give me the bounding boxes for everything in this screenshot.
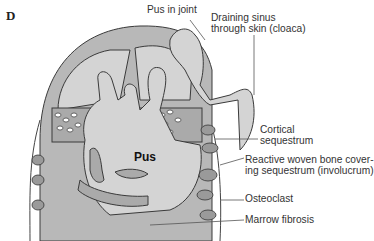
label-marrow-fibrosis: Marrow fibrosis bbox=[245, 214, 314, 226]
label-pus-in-joint: Pus in joint bbox=[147, 4, 197, 16]
label-reactive-line2: ing sequestrum (involucrum) bbox=[245, 165, 374, 177]
pus-center-label: Pus bbox=[134, 150, 156, 164]
label-cortical-line2: sequestrum bbox=[260, 135, 313, 147]
label-osteoclast: Osteoclast bbox=[245, 193, 293, 205]
label-draining-sinus-line2: through skin (cloaca) bbox=[211, 23, 306, 35]
